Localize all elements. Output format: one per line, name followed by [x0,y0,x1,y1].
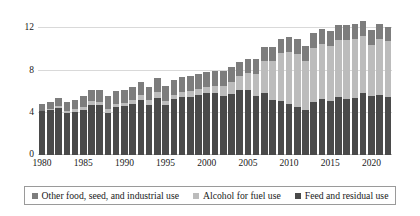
bar-segment-feed [146,105,153,155]
bar-segment-fuel [376,39,383,95]
bar-segment-feed [236,90,243,155]
bar-2007 [261,47,268,155]
bar-1981 [47,102,54,155]
bar-segment-feed [64,113,71,155]
legend-label: Alcohol for fuel use [203,191,281,201]
bar-1998 [187,76,194,155]
bar-2017 [343,25,350,155]
bar-1984 [72,100,79,155]
bar-2003 [228,67,235,155]
bar-group [38,20,392,155]
legend-item-feed[interactable]: Feed and residual use [295,191,389,201]
bar-segment-other [343,25,350,40]
bar-1999 [195,74,202,155]
bar-segment-feed [343,99,350,155]
bar-segment-other [253,59,260,73]
bar-segment-other [88,90,95,101]
bar-segment-feed [294,107,301,155]
bar-segment-other [212,71,219,86]
bar-segment-fuel [352,39,359,98]
bar-segment-other [261,47,268,61]
bar-segment-feed [319,99,326,155]
bar-segment-feed [269,100,276,155]
bar-segment-other [220,71,227,85]
bar-segment-feed [171,99,178,155]
bar-1989 [113,91,120,155]
bar-1988 [105,96,112,155]
bar-2019 [360,21,367,155]
legend-item-other[interactable]: Other food, seed, and industrial use [32,191,179,201]
bar-1991 [129,87,136,155]
bar-2018 [352,24,359,155]
x-tick-label: 1980 [33,158,52,168]
x-axis-labels: 198019851990199520002005201020152020 [38,158,392,172]
bar-2013 [310,33,317,155]
legend-label: Other food, seed, and industrial use [42,191,179,201]
bar-segment-other [80,96,87,107]
bar-segment-feed [212,93,219,155]
bar-segment-feed [138,100,145,155]
bar-2000 [203,72,210,155]
bar-segment-feed [245,90,252,155]
bar-segment-feed [302,110,309,155]
bar-2014 [319,29,326,155]
bar-segment-feed [88,105,95,155]
bar-segment-other [171,80,178,95]
bar-segment-feed [352,98,359,155]
bar-segment-fuel [385,41,392,96]
bar-segment-feed [113,107,120,155]
bar-segment-fuel [294,54,301,107]
bar-1990 [121,90,128,155]
bar-2009 [278,39,285,155]
stacked-bar-chart: 04812 1980198519901995200020052010201520… [0,0,420,216]
bar-segment-feed [121,106,128,155]
bar-1980 [39,104,46,155]
bar-segment-fuel [368,45,375,96]
legend-item-fuel[interactable]: Alcohol for fuel use [193,191,281,201]
bar-segment-fuel [278,53,285,101]
y-axis-labels: 04812 [0,0,34,216]
bar-2004 [236,62,243,155]
bar-segment-fuel [212,86,219,93]
legend-label: Feed and residual use [305,191,389,201]
bar-2020 [368,30,375,155]
bar-segment-fuel [261,61,268,93]
bar-segment-feed [105,113,112,156]
bar-segment-feed [261,93,268,155]
bar-segment-other [302,46,309,61]
x-tick-label: 1995 [156,158,175,168]
bar-segment-fuel [286,52,293,105]
bar-segment-other [39,104,46,111]
bar-1987 [96,90,103,155]
bar-segment-other [55,98,62,106]
bar-1985 [80,96,87,155]
bar-2008 [269,47,276,155]
bar-segment-fuel [228,82,235,94]
bar-segment-feed [253,96,260,155]
bar-segment-feed [286,104,293,155]
bar-segment-fuel [302,61,309,110]
chart-legend: Other food, seed, and industrial useAlco… [24,186,396,205]
bar-segment-fuel [203,87,210,94]
bar-segment-other [121,90,128,103]
bar-segment-feed [39,111,46,155]
bar-segment-feed [203,93,210,155]
bar-segment-feed [368,96,375,155]
bar-segment-other [146,87,153,101]
bar-segment-other [319,29,326,44]
bar-segment-other [228,67,235,81]
bar-2005 [245,59,252,155]
x-tick-label: 1985 [74,158,93,168]
bar-segment-feed [129,104,136,155]
bar-segment-other [179,77,186,92]
x-tick-label: 2010 [280,158,299,168]
bar-2006 [253,59,260,155]
bar-segment-other [294,39,301,54]
y-tick-label: 12 [25,24,35,34]
bar-2001 [212,71,219,155]
bar-segment-fuel [220,86,227,96]
bar-segment-fuel [269,61,276,100]
bar-segment-other [385,27,392,42]
bar-segment-feed [335,97,342,155]
bar-segment-fuel [343,40,350,99]
